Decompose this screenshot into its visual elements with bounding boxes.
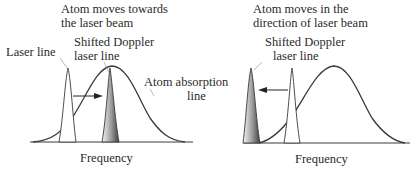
shifted-label-line1: Shifted Doppler xyxy=(265,35,346,49)
panel-title-line1: Atom moves towards xyxy=(61,2,168,16)
shifted-label-line2: laser line xyxy=(273,49,319,63)
panel-atom-with-beam: Atom moves in the direction of laser bea… xyxy=(243,2,410,166)
frequency-label: Frequency xyxy=(80,151,134,165)
absorption-label-line2: line xyxy=(187,89,206,103)
laser-line-peak xyxy=(59,68,76,142)
shifted-doppler-peak xyxy=(102,68,119,142)
atom-absorption-curve xyxy=(259,66,405,143)
arrow-head-left-icon xyxy=(258,87,267,93)
laser-label-leader xyxy=(60,58,67,68)
laser-line-peak xyxy=(284,68,300,143)
panel-atom-towards-beam: Atom moves towards the laser beam Laser … xyxy=(6,2,229,165)
shifted-label-leader xyxy=(254,62,262,70)
absorption-label-line1: Atom absorption xyxy=(144,75,229,89)
shifted-doppler-peak xyxy=(243,68,260,143)
panel-title-line2: the laser beam xyxy=(61,16,133,30)
shifted-label-line2: laser line xyxy=(74,49,120,63)
shifted-label-line1: Shifted Doppler xyxy=(74,35,155,49)
absorption-label-leader xyxy=(150,89,154,96)
panel-title-line1: Atom moves in the xyxy=(253,2,349,16)
laser-line-label: Laser line xyxy=(6,45,56,59)
doppler-shift-diagram: Atom moves towards the laser beam Laser … xyxy=(0,0,414,170)
frequency-label: Frequency xyxy=(295,152,349,166)
arrow-head-right-icon xyxy=(94,93,103,99)
panel-title-line2: direction of laser beam xyxy=(253,16,368,30)
